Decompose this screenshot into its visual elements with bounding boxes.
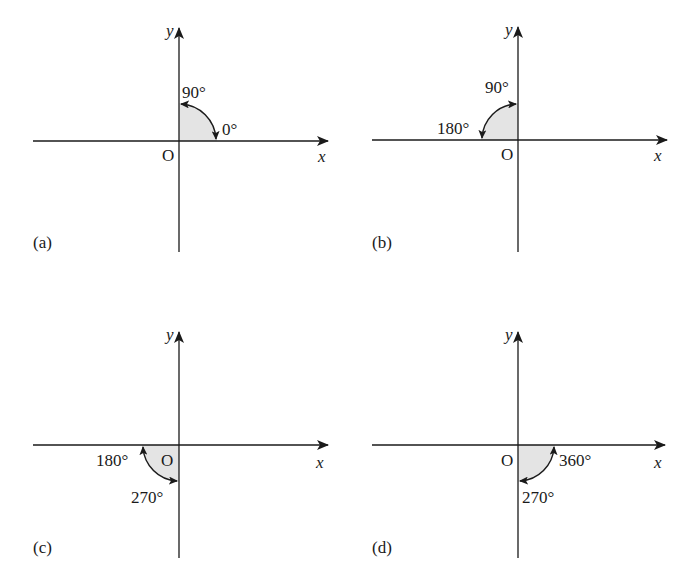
panel-d: 360° 270° O x y (d) bbox=[372, 325, 665, 558]
y-axis-label: y bbox=[164, 21, 174, 40]
origin-label: O bbox=[162, 146, 174, 165]
origin-label: O bbox=[161, 451, 173, 470]
panel-b: 90° 180° O x y (b) bbox=[372, 20, 667, 252]
start-angle-label: 0° bbox=[222, 120, 237, 139]
origin-label: O bbox=[501, 451, 513, 470]
x-axis-label: x bbox=[315, 453, 324, 472]
end-angle-label: 360° bbox=[559, 451, 591, 470]
x-axis-label: x bbox=[317, 147, 326, 166]
x-axis-label: x bbox=[653, 453, 662, 472]
y-axis-label: y bbox=[503, 20, 513, 39]
x-axis-label: x bbox=[653, 146, 662, 165]
start-angle-label: 270° bbox=[522, 488, 554, 507]
start-angle-label: 180° bbox=[96, 451, 128, 470]
end-angle-label: 90° bbox=[485, 78, 509, 97]
start-angle-label: 180° bbox=[437, 119, 469, 138]
panel-label: (c) bbox=[33, 538, 52, 557]
y-axis-label: y bbox=[503, 325, 513, 344]
end-angle-label: 270° bbox=[131, 488, 163, 507]
panel-label: (a) bbox=[33, 233, 52, 252]
end-angle-label: 90° bbox=[182, 83, 206, 102]
y-axis-label: y bbox=[164, 325, 174, 344]
panel-a: 90° 0° O x y (a) bbox=[33, 21, 328, 252]
panel-label: (d) bbox=[372, 538, 392, 557]
origin-label: O bbox=[501, 145, 513, 164]
panel-c: 180° 270° O x y (c) bbox=[33, 325, 328, 558]
quadrant-angle-figure: 90° 0° O x y (a) 90° 180° O x y (b) 180°… bbox=[0, 0, 691, 562]
panel-label: (b) bbox=[372, 233, 392, 252]
